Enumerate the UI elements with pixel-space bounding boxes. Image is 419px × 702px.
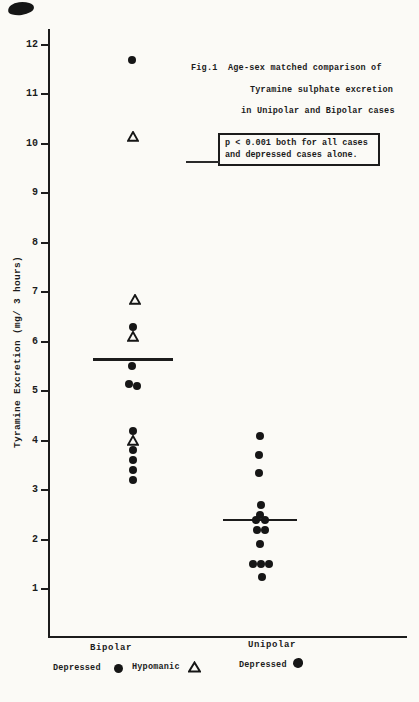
scan-artifact [7, 1, 34, 17]
legend-label-hypomanic: Hypomanic [132, 662, 180, 672]
y-tick-mark [41, 192, 48, 194]
figure-title-line-3: in Unipolar and Bipolar cases [241, 106, 395, 116]
data-point-filled-circle [256, 432, 264, 440]
data-point-filled-circle [125, 380, 133, 388]
y-tick-mark [41, 390, 48, 392]
data-point-open-triangle [127, 131, 139, 142]
data-point-filled-circle [128, 362, 136, 370]
y-tick-label: 7 [14, 286, 38, 298]
data-point-filled-circle [261, 526, 269, 534]
data-point-filled-circle [255, 451, 263, 459]
data-point-filled-circle [129, 476, 137, 484]
data-point-filled-circle [257, 560, 265, 568]
y-axis-line [48, 29, 50, 638]
y-tick-mark [41, 539, 48, 541]
data-point-filled-circle [252, 516, 260, 524]
pvalue-note-box: p < 0.001 both for all cases and depress… [218, 133, 380, 166]
y-tick-label: 10 [14, 138, 38, 150]
data-point-filled-circle [133, 382, 141, 390]
filled-circle-icon [114, 664, 123, 673]
data-point-filled-circle [261, 516, 269, 524]
y-tick-mark [41, 440, 48, 442]
data-point-filled-circle [129, 427, 137, 435]
category-label-unipolar: Unipolar [248, 640, 296, 650]
y-tick-mark [41, 489, 48, 491]
y-axis-label: Tyramine Excretion (mg/ 3 hours) [12, 256, 23, 448]
y-tick-label: 12 [14, 39, 38, 51]
y-tick-mark [41, 93, 48, 95]
data-point-filled-circle [256, 540, 264, 548]
y-tick-label: 4 [14, 435, 38, 447]
y-tick-label: 5 [14, 385, 38, 397]
data-point-filled-circle [129, 446, 137, 454]
pvalue-note-line-2: and depressed cases alone. [225, 150, 373, 162]
data-point-filled-circle [253, 526, 261, 534]
data-point-filled-circle [129, 323, 137, 331]
data-point-open-triangle [127, 331, 139, 342]
mean-line-bipolar [93, 358, 173, 361]
scan-line-artifact [186, 161, 220, 163]
y-tick-label: 8 [14, 237, 38, 249]
mean-line-unipolar [223, 519, 297, 522]
filled-circle-icon [293, 658, 303, 668]
data-point-filled-circle [249, 560, 257, 568]
data-point-open-triangle [129, 294, 141, 305]
figure-title-line-1: Age-sex matched comparison of [228, 63, 382, 73]
data-point-filled-circle [129, 466, 137, 474]
y-tick-label: 11 [14, 88, 38, 100]
y-tick-mark [41, 143, 48, 145]
legend-label-depressed-unipolar: Depressed [239, 660, 287, 670]
y-tick-mark [41, 588, 48, 590]
data-point-filled-circle [255, 469, 263, 477]
y-tick-mark [41, 291, 48, 293]
y-tick-mark [41, 341, 48, 343]
y-tick-mark [41, 242, 48, 244]
y-tick-label: 1 [14, 583, 38, 595]
legend-label-depressed-bipolar: Depressed [53, 663, 101, 673]
y-tick-label: 6 [14, 336, 38, 348]
data-point-filled-circle [128, 56, 136, 64]
pvalue-note-line-1: p < 0.001 both for all cases [225, 138, 373, 150]
y-tick-label: 9 [14, 187, 38, 199]
open-triangle-icon [188, 660, 201, 672]
data-point-filled-circle [265, 560, 273, 568]
data-point-open-triangle [127, 435, 139, 446]
data-point-filled-circle [257, 501, 265, 509]
data-point-filled-circle [258, 573, 266, 581]
y-tick-mark [41, 44, 48, 46]
figure-title-line-2: Tyramine sulphate excretion [250, 85, 393, 95]
figure-page: Fig.1 Age-sex matched comparison of Tyra… [0, 0, 419, 702]
y-tick-label: 2 [14, 534, 38, 546]
x-axis-line [48, 636, 407, 638]
data-point-filled-circle [129, 456, 137, 464]
y-tick-label: 3 [14, 484, 38, 496]
figure-number: Fig.1 [191, 63, 218, 73]
category-label-bipolar: Bipolar [90, 643, 132, 653]
